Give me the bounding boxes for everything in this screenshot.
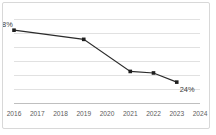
data-point-2019[interactable]	[82, 38, 86, 42]
chart-card: 58% 24% 20162017201820192020202120222023…	[2, 2, 210, 129]
x-tick-2017: 2017	[30, 110, 45, 117]
data-point-2021[interactable]	[128, 70, 132, 74]
data-point-2022[interactable]	[152, 71, 156, 75]
start-value-label: 58%	[3, 20, 13, 29]
x-tick-2021: 2021	[123, 110, 138, 117]
x-tick-2018: 2018	[53, 110, 68, 117]
x-tick-2016: 2016	[7, 110, 22, 117]
x-tick-2020: 2020	[100, 110, 115, 117]
end-value-label: 24%	[180, 85, 195, 94]
data-point-2016[interactable]	[12, 28, 16, 32]
x-tick-2024: 2024	[193, 110, 208, 117]
line-chart: 58% 24% 20162017201820192020202120222023…	[3, 3, 211, 130]
gridlines	[14, 20, 200, 90]
x-axis-tick-labels: 201620172018201920202021202220232024	[7, 110, 208, 117]
x-tick-2023: 2023	[169, 110, 184, 117]
x-tick-2022: 2022	[146, 110, 161, 117]
chart-canvas: 58% 24% 20162017201820192020202120222023…	[3, 3, 211, 130]
data-point-2023[interactable]	[175, 80, 179, 84]
x-tick-2019: 2019	[76, 110, 91, 117]
